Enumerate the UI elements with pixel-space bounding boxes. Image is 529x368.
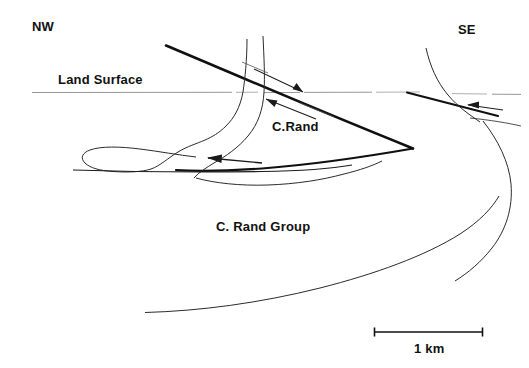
land-surface-label: Land Surface — [58, 72, 143, 87]
cross-section-drawing — [0, 0, 529, 368]
crand-unit-label: C.Rand — [272, 119, 319, 134]
orientation-label-se: SE — [458, 22, 476, 37]
crand-group-unit-label: C. Rand Group — [216, 219, 310, 234]
orientation-label-nw: NW — [32, 19, 54, 34]
figure-background — [0, 0, 529, 368]
scale-bar-label: 1 km — [414, 341, 444, 356]
geological-cross-section-figure: NW SE Land Surface C.Rand C. Rand Group … — [0, 0, 529, 368]
